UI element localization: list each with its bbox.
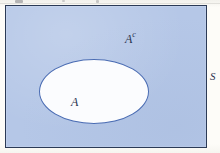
label-a-complement-superscript: c [132,30,136,39]
scan-artifact-smudge-right [96,0,99,3]
label-a-complement: Ac [125,32,136,45]
scan-artifact-smudge-middle [62,0,65,2]
label-set-a: A [71,96,78,108]
venn-diagram-figure: Ac A S [0,0,220,153]
set-a-region [39,59,149,124]
scan-artifact-smudge-left [15,0,23,3]
scan-artifact-line [0,3,220,4]
label-universal-set-s: S [210,71,216,82]
universal-set-region: Ac A [5,5,207,148]
